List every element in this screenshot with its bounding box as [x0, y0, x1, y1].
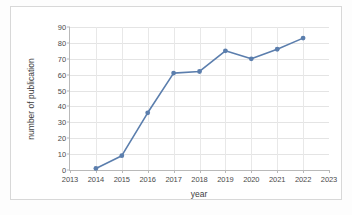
- data-point-marker: [171, 71, 176, 76]
- x-axis-tick-label: 2020: [243, 175, 259, 184]
- x-axis-tick-label: 2013: [62, 175, 78, 184]
- x-axis-tick-label: 2015: [114, 175, 130, 184]
- x-axis-tick-label: 2023: [321, 175, 337, 184]
- y-axis-title-label: number of publication: [26, 58, 36, 139]
- x-axis-tick-mark: [200, 170, 201, 173]
- x-axis-tick-label: 2016: [140, 175, 156, 184]
- plot-area: 0102030405060708090 20132014201520162017…: [69, 27, 329, 171]
- x-axis-tick-mark: [225, 170, 226, 173]
- y-axis-tick-label: 40: [58, 102, 66, 111]
- chart-frame: number of publication 010203040506070809…: [10, 6, 342, 200]
- y-axis-tick-label: 50: [58, 86, 66, 95]
- x-axis-tick-label: 2014: [88, 175, 104, 184]
- x-axis-tick-mark: [122, 170, 123, 173]
- line-series: [70, 27, 329, 170]
- data-point-marker: [223, 48, 228, 53]
- x-axis-tick-label: 2022: [295, 175, 311, 184]
- series-line: [96, 38, 303, 168]
- x-axis-tick-mark: [251, 170, 252, 173]
- x-axis-tick-mark: [329, 170, 330, 173]
- x-axis-tick-mark: [148, 170, 149, 173]
- y-axis-tick-label: 10: [58, 150, 66, 159]
- y-axis-tick-label: 70: [58, 54, 66, 63]
- x-axis-tick-label: 2021: [269, 175, 285, 184]
- data-point-marker: [301, 36, 306, 41]
- x-axis-title-label: year: [191, 189, 208, 199]
- y-axis-tick-label: 90: [58, 23, 66, 32]
- x-axis-tick-mark: [70, 170, 71, 173]
- x-axis-title: year: [69, 189, 329, 199]
- x-axis-tick-label: 2019: [217, 175, 233, 184]
- data-point-marker: [197, 69, 202, 74]
- y-axis-tick-label: 20: [58, 134, 66, 143]
- y-axis-tick-label: 30: [58, 118, 66, 127]
- x-axis-tick-label: 2017: [165, 175, 181, 184]
- y-axis-title: number of publication: [25, 27, 37, 171]
- data-point-marker: [249, 56, 254, 61]
- y-axis-tick-label: 80: [58, 38, 66, 47]
- data-point-marker: [119, 153, 124, 158]
- data-point-marker: [145, 110, 150, 115]
- x-axis-tick-mark: [174, 170, 175, 173]
- y-axis-tick-label: 60: [58, 70, 66, 79]
- data-point-marker: [275, 47, 280, 52]
- x-axis-tick-mark: [303, 170, 304, 173]
- x-axis-tick-mark: [277, 170, 278, 173]
- data-point-marker: [94, 166, 99, 171]
- x-axis-tick-label: 2018: [191, 175, 207, 184]
- y-axis-tick-label: 0: [62, 166, 66, 175]
